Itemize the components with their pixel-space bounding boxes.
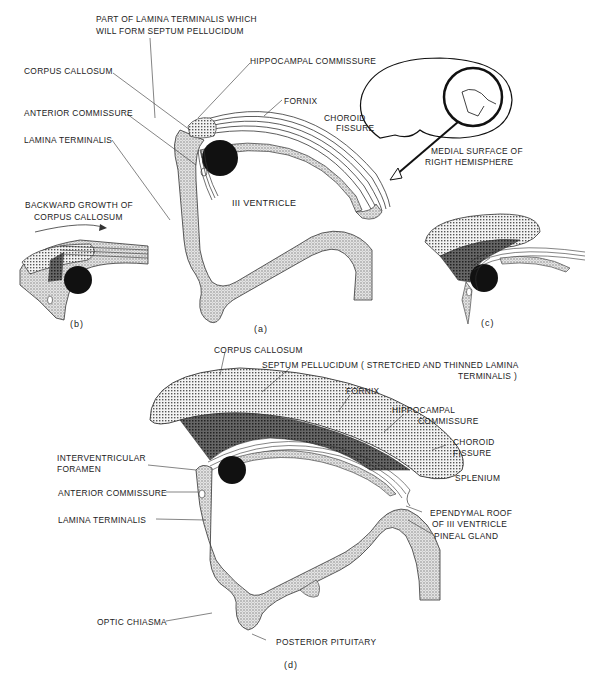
label-fornix-d: FORNIX [346, 386, 379, 396]
label-septum-2: TERMINALIS ) [458, 371, 517, 381]
label-corpus-callosum-d: CORPUS CALLOSUM [214, 345, 303, 355]
label-choroid-d-2: FISSURE [453, 448, 491, 458]
label-fornix-a: FORNIX [284, 96, 317, 106]
panel-a-drawing [112, 38, 390, 323]
label-ependymal-1: EPENDYMAL ROOF [430, 508, 512, 518]
label-corpus-callosum-a: CORPUS CALLOSUM [24, 66, 113, 76]
label-interventricular-1: INTERVENTRICULAR [57, 453, 146, 463]
label-choroid-d-1: CHOROID [453, 437, 495, 447]
label-lamina-terminalis-a: LAMINA TERMINALIS [24, 135, 112, 145]
label-optic-chiasma: OPTIC CHIASMA [97, 617, 167, 627]
label-backward-growth-2: CORPUS CALLOSUM [34, 212, 123, 222]
label-hippocampal-d-1: HIPPOCAMPAL [392, 405, 455, 415]
label-septum-1: SEPTUM PELLUCIDUM ( STRETCHED AND THINNE… [262, 360, 519, 370]
label-lamina-septum-1: PART OF LAMINA TERMINALIS WHICH [96, 14, 257, 24]
label-lamina-terminalis-d: LAMINA TERMINALIS [58, 515, 146, 525]
label-backward-growth-1: BACKWARD GROWTH OF [25, 200, 133, 210]
label-pineal-gland: PINEAL GLAND [434, 531, 498, 541]
label-medial-surface-1: MEDIAL SURFACE OF [431, 146, 523, 156]
panel-b-drawing [20, 224, 148, 320]
label-third-ventricle: III VENTRICLE [232, 198, 296, 208]
label-splenium: SPLENIUM [455, 473, 500, 483]
label-interventricular-2: FORAMEN [57, 464, 101, 474]
label-choroid-a-2: FISSURE [336, 123, 374, 133]
label-lamina-septum-2: WILL FORM SEPTUM PELLUCIDUM [96, 26, 244, 36]
caption-b: (b) [70, 319, 84, 329]
caption-c: (c) [481, 318, 495, 328]
label-hippocampal-commissure-a: HIPPOCAMPAL COMMISSURE [250, 56, 376, 66]
label-ependymal-2: OF III VENTRICLE [432, 519, 507, 529]
panel-c-drawing [425, 214, 585, 324]
panel-d-drawing [148, 352, 463, 640]
label-anterior-commissure-d: ANTERIOR COMMISSURE [58, 488, 167, 498]
label-posterior-pituitary: POSTERIOR PITUITARY [276, 637, 376, 647]
caption-d: (d) [284, 660, 298, 670]
label-hippocampal-d-2: COMMISSURE [418, 416, 479, 426]
caption-a: (a) [254, 324, 268, 334]
label-choroid-a-1: CHOROID [324, 113, 366, 123]
label-medial-surface-2: RIGHT HEMISPHERE [425, 157, 513, 167]
label-anterior-commissure-a: ANTERIOR COMMISSURE [24, 108, 133, 118]
